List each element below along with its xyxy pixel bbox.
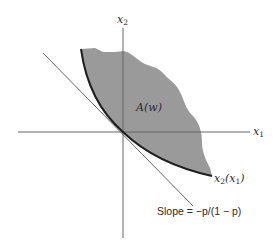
isoquant-diagram: x2 x1 A(w) x2(x1) Slope = −p/(1 − p) <box>0 0 275 250</box>
region-label-a-w: A(w) <box>136 102 162 113</box>
x1-axis-label: x1 <box>253 126 264 139</box>
x2-axis-label: x2 <box>117 14 128 27</box>
curve-label-x2-x1: x2(x1) <box>214 173 245 186</box>
tangent-slope-label: Slope = −p/(1 − p) <box>157 206 241 217</box>
